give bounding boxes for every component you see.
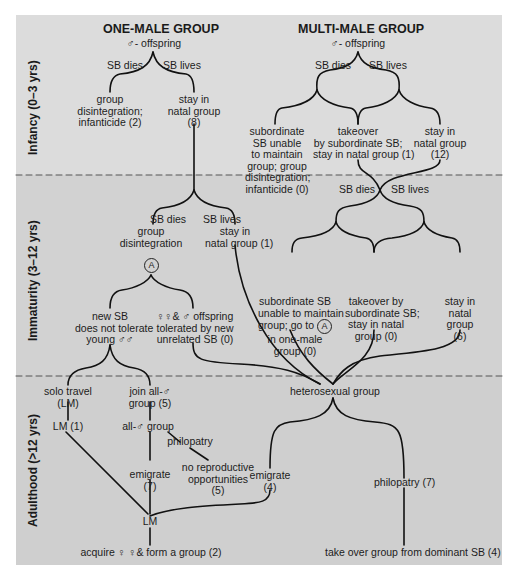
adult-join-all-male: join all-♂group (5) [120, 386, 180, 409]
marker-a-ref: A [317, 319, 332, 334]
multi-male-infancy-stay: stay innatal group(12) [410, 126, 470, 161]
multi-male-imm-takeover: takeover bysubordinate SB;stay in natalg… [345, 296, 407, 342]
one-male-imm-sb-lives: SB lives [202, 214, 242, 226]
stage-label-infancy: Infancy (0–3 yrs) [26, 45, 40, 155]
multi-male-group-header: MULTI-MALE GROUP [298, 22, 418, 36]
multi-male-imm-sb-dies: SB dies [337, 184, 377, 196]
adult-take-over: take over group from dominant SB (4) [325, 547, 485, 559]
one-male-infancy-stay: stay innatal group(8) [164, 94, 224, 129]
multi-male-infancy-sb-dies: SB dies [313, 60, 353, 72]
one-male-imm-not-tolerate: new SBdoes not tolerateyoung ♂♂ [75, 311, 145, 346]
one-male-imm-disintegration: groupdisintegration [118, 226, 184, 249]
multi-male-imm-sb-lives: SB lives [390, 184, 430, 196]
adult-emigrate-4: emigrate(4) [248, 470, 292, 493]
one-male-imm-sb-dies: SB dies [148, 214, 188, 226]
multi-male-infancy-sb-lives: SB lives [368, 60, 408, 72]
one-male-infancy-disintegration: groupdisintegration;infanticide (2) [76, 94, 144, 129]
adult-lm-1: LM (1) [46, 421, 90, 433]
adult-all-male-group: all-♂ group [118, 421, 178, 433]
adult-heterosexual-group: heterosexual group [290, 386, 376, 398]
multi-male-imm-subordinate: subordinate SBunable to maintain group; … [258, 296, 332, 357]
adult-philopatry-7: philopatry (7) [374, 477, 434, 489]
stage-label-immaturity: Immaturity (3–12 yrs) [26, 211, 40, 341]
multi-male-offspring-label: ♂- offspring [322, 38, 394, 50]
adult-lm: LM [138, 516, 162, 528]
multi-male-infancy-takeover: takeoverby subordinate SB;stay in natal … [313, 126, 403, 161]
adult-philopatry: philopatry [160, 436, 220, 448]
adult-acquire: acquire ♀ ♀& form a group (2) [76, 547, 226, 559]
stage-label-adulthood: Adulthood (>12 yrs) [26, 405, 40, 527]
marker-a: A [144, 258, 159, 273]
multi-male-imm-stay: stay innatalgroup(6) [440, 296, 480, 342]
multi-male-infancy-subordinate: subordinateSB unableto maintaingroup; gr… [245, 126, 309, 195]
one-male-infancy-sb-lives: SB lives [162, 60, 202, 72]
adult-solo-travel: solo travel(LM) [40, 386, 96, 409]
adult-emigrate-7: emigrate(7) [126, 469, 174, 492]
adult-no-repro: no reproductiveopportunities(5) [178, 462, 258, 497]
one-male-imm-tolerated: ♀♀& ♂ offspringtolerated by newunrelated… [155, 311, 235, 346]
one-male-group-header: ONE-MALE GROUP [103, 22, 203, 36]
one-male-infancy-sb-dies: SB dies [105, 60, 145, 72]
one-male-imm-stay: stay innatal group (1) [205, 226, 265, 249]
one-male-offspring-label: ♂- offspring [118, 38, 190, 50]
